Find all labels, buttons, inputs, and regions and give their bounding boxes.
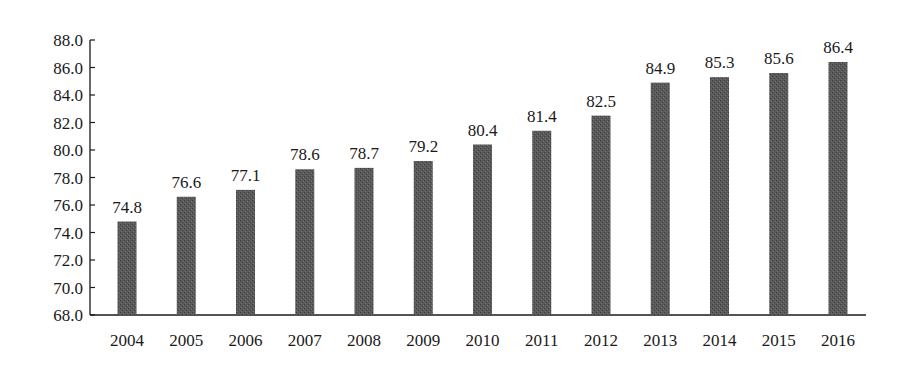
x-tick-label: 2009 xyxy=(406,331,440,350)
bar xyxy=(295,169,314,315)
x-tick-label: 2011 xyxy=(525,331,558,350)
bar xyxy=(710,77,729,315)
bar-value-label: 85.3 xyxy=(705,53,735,72)
x-tick-label: 2013 xyxy=(643,331,677,350)
bar-value-label: 77.1 xyxy=(231,166,261,185)
y-tick-label: 74.0 xyxy=(53,224,83,243)
bar xyxy=(769,73,788,315)
y-tick-label: 86.0 xyxy=(53,59,83,78)
bars: 74.8200476.6200577.1200678.6200778.72008… xyxy=(110,38,855,350)
bar-value-label: 84.9 xyxy=(645,59,675,78)
y-tick-label: 80.0 xyxy=(53,141,83,160)
y-axis: 68.070.072.074.076.078.080.082.084.086.0… xyxy=(53,31,95,325)
x-tick-label: 2014 xyxy=(703,331,738,350)
bar-group: 85.62015 xyxy=(762,49,796,350)
bar-group: 76.62005 xyxy=(169,173,203,350)
bar xyxy=(177,197,196,315)
x-tick-label: 2010 xyxy=(466,331,500,350)
bar-value-label: 74.8 xyxy=(112,198,142,217)
bar-group: 78.72008 xyxy=(347,144,381,350)
bar-value-label: 82.5 xyxy=(586,92,616,111)
bar-group: 77.12006 xyxy=(229,166,263,350)
bar-group: 74.82004 xyxy=(110,198,145,351)
x-tick-label: 2007 xyxy=(288,331,323,350)
bar-value-label: 81.4 xyxy=(527,107,557,126)
y-tick-label: 72.0 xyxy=(53,251,83,270)
bar xyxy=(473,145,492,316)
y-tick-label: 78.0 xyxy=(53,169,83,188)
bar-value-label: 85.6 xyxy=(764,49,794,68)
y-tick-label: 76.0 xyxy=(53,196,83,215)
y-tick-label: 70.0 xyxy=(53,279,83,298)
bar-group: 85.32014 xyxy=(703,53,738,350)
bar-group: 79.22009 xyxy=(406,137,440,350)
y-tick-label: 84.0 xyxy=(53,86,83,105)
bar-value-label: 79.2 xyxy=(408,137,438,156)
bar-group: 78.62007 xyxy=(288,145,323,350)
x-tick-label: 2006 xyxy=(229,331,263,350)
y-tick-label: 88.0 xyxy=(53,31,83,50)
bar-value-label: 80.4 xyxy=(468,121,498,140)
bar-group: 86.42016 xyxy=(821,38,855,350)
bar-group: 81.42011 xyxy=(525,107,558,350)
bar xyxy=(532,131,551,315)
bar xyxy=(651,83,670,315)
x-tick-label: 2004 xyxy=(110,331,145,350)
x-tick-label: 2008 xyxy=(347,331,381,350)
x-tick-label: 2005 xyxy=(169,331,203,350)
bar-group: 82.52012 xyxy=(584,92,618,350)
bar xyxy=(355,168,374,315)
bar xyxy=(236,190,255,315)
x-tick-label: 2016 xyxy=(821,331,855,350)
bar-value-label: 86.4 xyxy=(823,38,853,57)
bar-group: 84.92013 xyxy=(643,59,677,350)
bar-value-label: 78.7 xyxy=(349,144,379,163)
bar-chart: 68.070.072.074.076.078.080.082.084.086.0… xyxy=(0,0,901,375)
y-tick-label: 82.0 xyxy=(53,114,83,133)
bar-value-label: 78.6 xyxy=(290,145,320,164)
bar-value-label: 76.6 xyxy=(171,173,201,192)
x-tick-label: 2012 xyxy=(584,331,618,350)
y-tick-label: 68.0 xyxy=(53,306,83,325)
bar xyxy=(414,161,433,315)
bar xyxy=(592,116,611,315)
bar xyxy=(118,222,137,316)
bar xyxy=(829,62,848,315)
x-tick-label: 2015 xyxy=(762,331,796,350)
